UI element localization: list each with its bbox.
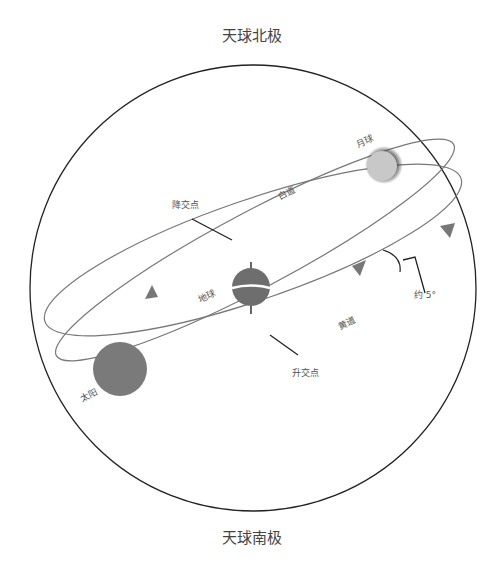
lunar-orbit-label: 白道 bbox=[276, 184, 297, 202]
arrow-icon bbox=[352, 260, 366, 276]
arrow-icon bbox=[145, 285, 158, 299]
arrow-icon bbox=[440, 223, 455, 238]
moon-label: 月球 bbox=[354, 132, 375, 150]
sun-label: 太阳 bbox=[78, 386, 99, 404]
lunar-orbit bbox=[38, 111, 471, 389]
sun bbox=[93, 342, 147, 396]
inclination-pointer bbox=[403, 257, 425, 293]
celestial-sphere-diagram: 太阳 月球 地球 白道 黄道 降交点 升交点 约 5° bbox=[0, 0, 503, 567]
ecliptic-orbit bbox=[29, 131, 478, 369]
inclination-arc bbox=[383, 250, 400, 272]
ascending-node-label: 升交点 bbox=[292, 367, 319, 378]
inclination-label: 约 5° bbox=[414, 289, 436, 300]
earth-label: 地球 bbox=[196, 287, 217, 305]
descending-node-label: 降交点 bbox=[172, 199, 199, 210]
moon bbox=[367, 151, 397, 181]
ecliptic-label: 黄道 bbox=[336, 314, 357, 332]
ascending-node-pointer bbox=[270, 335, 298, 355]
